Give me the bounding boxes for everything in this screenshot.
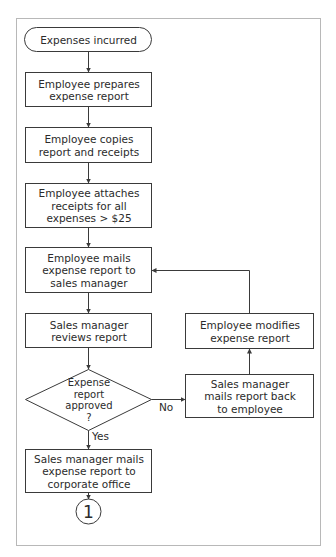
mail-to-manager-box-shape — [26, 248, 152, 293]
modify-box-shape — [186, 314, 314, 349]
mail-to-corporate-box-shape — [26, 450, 152, 493]
start-terminator-shape — [25, 28, 152, 52]
attach-box-shape — [26, 184, 152, 228]
review-box-shape — [26, 314, 152, 348]
edge-label-no: No — [159, 401, 173, 413]
copy-box-shape — [26, 128, 152, 163]
prepare-box-shape — [26, 73, 152, 107]
off-page-connector: 1 — [76, 499, 101, 524]
flowchart-canvas — [0, 0, 336, 557]
approved-decision-shape — [26, 370, 152, 431]
mail-back-box-shape — [186, 375, 314, 418]
edge-modify-loop-back — [152, 271, 250, 314]
edge-label-yes: Yes — [92, 430, 109, 442]
